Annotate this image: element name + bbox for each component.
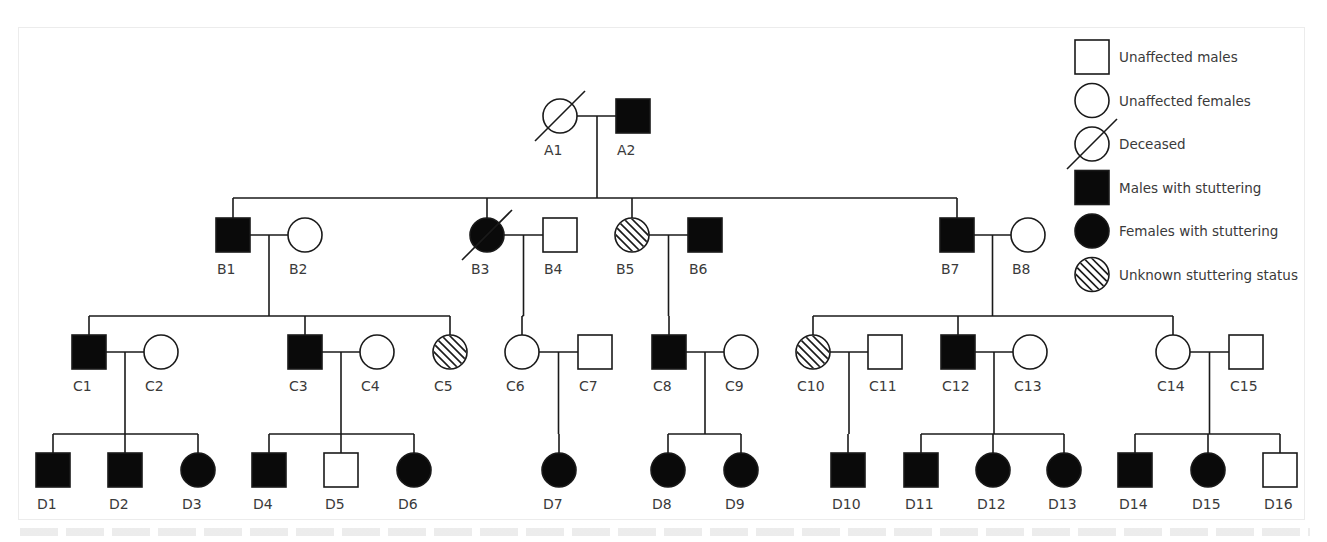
c2-symbol: [144, 335, 178, 369]
individual-d14: D14: [1118, 453, 1152, 512]
individual-label: C4: [361, 378, 380, 394]
legend-0-symbol: [1075, 40, 1109, 74]
b4-symbol: [543, 218, 577, 252]
individual-b7: B7: [940, 218, 974, 277]
male-square: [216, 218, 250, 252]
legend: Unaffected malesUnaffected femalesDeceas…: [1030, 40, 1298, 305]
individual-label: C5: [434, 378, 453, 394]
individual-label: D7: [543, 496, 563, 512]
d13-symbol: [1047, 453, 1081, 487]
female-circle: [1047, 453, 1081, 487]
female-circle: [1075, 214, 1109, 248]
c9-symbol: [724, 335, 758, 369]
caption-truncated: [20, 528, 1310, 536]
c14-symbol: [1156, 335, 1190, 369]
individual-label: C8: [653, 378, 672, 394]
female-circle: [724, 453, 758, 487]
individual-label: C11: [869, 378, 897, 394]
individual-label: D1: [37, 496, 57, 512]
individual-c9: C9: [724, 335, 758, 394]
male-square: [578, 335, 612, 369]
legend-item-circle-empty: Unaffected females: [1075, 84, 1251, 118]
individual-b2: B2: [288, 218, 322, 277]
female-circle: [397, 453, 431, 487]
individual-d13: D13: [1047, 453, 1081, 512]
individual-label: A2: [617, 142, 635, 158]
individual-d12: D12: [976, 453, 1010, 512]
individual-b3: B3: [462, 210, 512, 277]
individual-d4: D4: [252, 453, 286, 512]
male-square: [940, 218, 974, 252]
individual-d11: D11: [904, 453, 938, 512]
individual-label: D14: [1119, 496, 1148, 512]
individual-label: D13: [1048, 496, 1077, 512]
individual-d6: D6: [397, 453, 431, 512]
d3-symbol: [181, 453, 215, 487]
individual-label: C13: [1014, 378, 1042, 394]
c11-symbol: [868, 335, 902, 369]
a2-symbol: [616, 99, 650, 133]
individual-c13: C13: [1013, 335, 1047, 394]
c3-symbol: [288, 335, 322, 369]
individual-label: C14: [1157, 378, 1185, 394]
individual-label: B8: [1012, 261, 1031, 277]
legend-label: Unaffected females: [1119, 93, 1251, 109]
male-square: [616, 99, 650, 133]
pedigree-diagram: A1A2B1B2B3B4B5B6B7B8C1C2C3C4C5C6C7C8C9C1…: [0, 0, 1327, 542]
individual-label: B7: [941, 261, 960, 277]
individual-d8: D8: [651, 453, 685, 512]
individual-label: D6: [398, 496, 418, 512]
d14-symbol: [1118, 453, 1152, 487]
male-square: [108, 453, 142, 487]
legend-label: Deceased: [1119, 136, 1186, 152]
male-square: [72, 335, 106, 369]
legend-label: Unaffected males: [1119, 49, 1238, 65]
individual-c14: C14: [1156, 335, 1190, 394]
d11-symbol: [904, 453, 938, 487]
individual-label: C15: [1230, 378, 1258, 394]
legend-label: Females with stuttering: [1119, 223, 1278, 239]
male-square: [941, 335, 975, 369]
legend-item-circle-hatched: Unknown stuttering status: [1030, 245, 1298, 305]
individual-label: D3: [182, 496, 202, 512]
individual-label: D2: [109, 496, 129, 512]
male-square: [688, 218, 722, 252]
individual-label: D16: [1264, 496, 1293, 512]
individual-label: B3: [471, 261, 490, 277]
d8-symbol: [651, 453, 685, 487]
individual-label: A1: [544, 142, 562, 158]
legend-label: Unknown stuttering status: [1119, 267, 1298, 283]
legend-1-symbol: [1075, 84, 1109, 118]
d15-symbol: [1191, 453, 1225, 487]
legend-label: Males with stuttering: [1119, 180, 1261, 196]
male-square: [1229, 335, 1263, 369]
female-circle: [1075, 84, 1109, 118]
individual-label: D12: [977, 496, 1006, 512]
individual-b4: B4: [543, 218, 577, 277]
female-circle: [1191, 453, 1225, 487]
c7-symbol: [578, 335, 612, 369]
d2-symbol: [108, 453, 142, 487]
d5-symbol: [324, 453, 358, 487]
individual-label: D11: [905, 496, 934, 512]
individual-c7: C7: [578, 335, 612, 394]
c1-symbol: [72, 335, 106, 369]
male-square: [324, 453, 358, 487]
individual-c12: C12: [941, 335, 975, 394]
legend-item-square-empty: Unaffected males: [1075, 40, 1238, 74]
individuals: A1A2B1B2B3B4B5B6B7B8C1C2C3C4C5C6C7C8C9C1…: [36, 91, 1297, 512]
a1-symbol: [535, 91, 585, 141]
male-square: [652, 335, 686, 369]
c6-symbol: [505, 335, 539, 369]
individual-label: C3: [289, 378, 308, 394]
c8-symbol: [652, 335, 686, 369]
legend-item-square-filled: Males with stuttering: [1075, 171, 1261, 205]
individual-d1: D1: [36, 453, 70, 512]
individual-d10: D10: [831, 453, 865, 512]
male-square: [1075, 40, 1109, 74]
individual-c4: C4: [360, 335, 394, 394]
d6-symbol: [397, 453, 431, 487]
d7-symbol: [542, 453, 576, 487]
b8-symbol: [1011, 218, 1045, 252]
d4-symbol: [252, 453, 286, 487]
